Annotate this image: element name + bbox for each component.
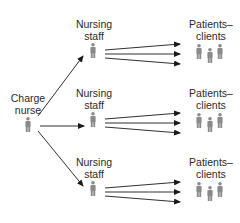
patients-clients-label-3: Patients– clients <box>186 156 236 180</box>
nursing-staff-label-3: Nursing staff <box>72 156 116 180</box>
nursing-staff-label-1: Nursing staff <box>72 18 116 42</box>
staff-to-patients-arrows-3 <box>105 182 180 202</box>
patients-clients-label-2: Patients– clients <box>186 87 236 111</box>
staff-person-icon-2 <box>90 112 95 127</box>
patients-group-icon-1 <box>196 44 222 63</box>
nursing-staff-label-2: Nursing staff <box>72 87 116 111</box>
staff-person-icon-3 <box>90 181 95 196</box>
staff-person-icon-1 <box>90 43 95 58</box>
staff-to-patients-arrows-1 <box>105 44 180 64</box>
patients-group-icon-3 <box>196 182 222 201</box>
patients-group-icon-2 <box>196 113 222 132</box>
patients-clients-label-1: Patients– clients <box>186 18 236 42</box>
charge-nurse-person-icon <box>25 117 30 132</box>
charge-nurse-label: Charge nurse <box>6 92 50 116</box>
staff-to-patients-arrows-2 <box>105 113 180 133</box>
